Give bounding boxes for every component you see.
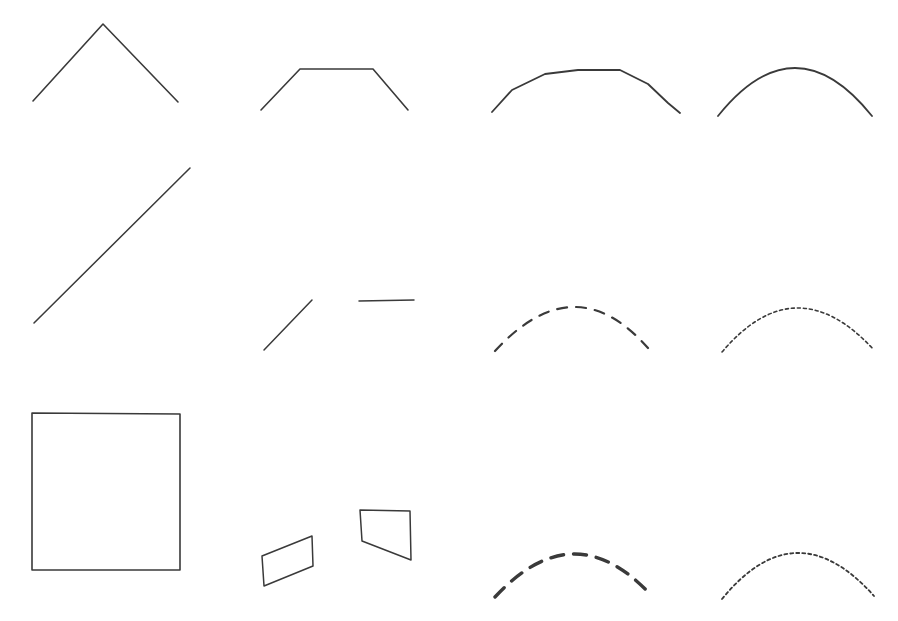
panel-hit-r3c4[interactable] (716, 547, 880, 605)
figure-root (0, 0, 898, 621)
panel-hit-r1c4[interactable] (712, 62, 878, 122)
panel-hit-r3c3[interactable] (489, 548, 656, 603)
panel-hit-r1c2[interactable] (255, 63, 414, 116)
panel-hit-r2c1[interactable] (28, 162, 196, 329)
panel-hit-r2c2[interactable] (258, 294, 420, 356)
panel-hit-r1c3[interactable] (486, 64, 686, 119)
panel-hit-r1c1[interactable] (27, 18, 184, 108)
panel-hit-r3c1[interactable] (26, 407, 186, 576)
panel-hit-r3c2[interactable] (256, 504, 417, 592)
panel-hit-r2c4[interactable] (716, 302, 880, 358)
panel-hit-r2c3[interactable] (489, 301, 654, 357)
